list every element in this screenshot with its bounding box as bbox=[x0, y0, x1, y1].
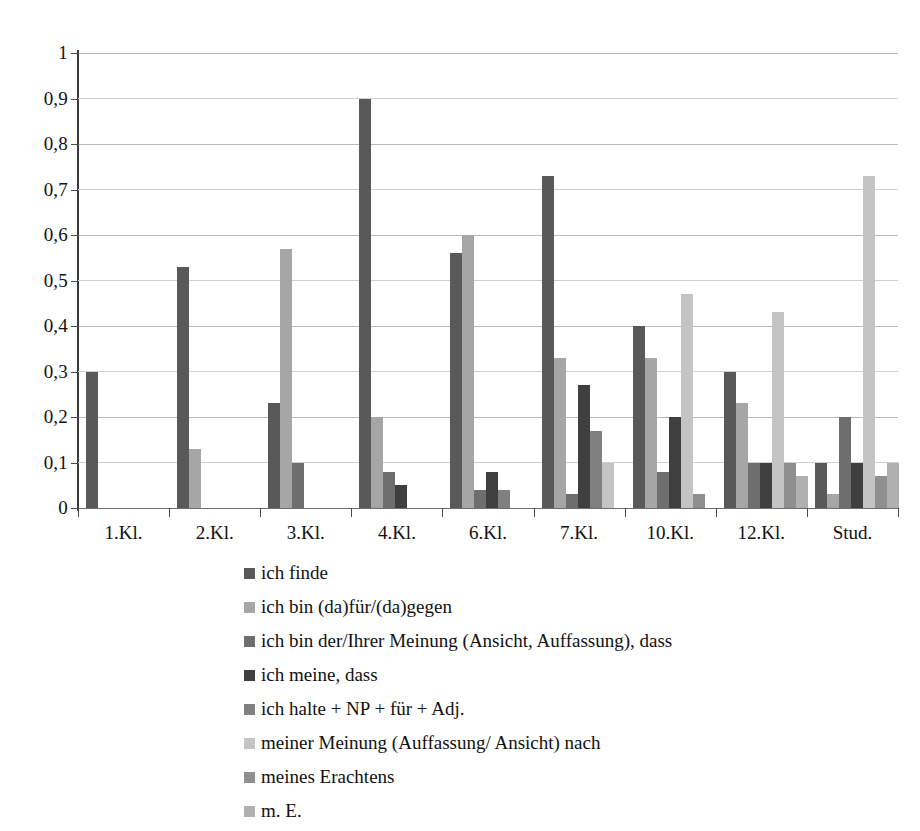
x-axis-tick-mark bbox=[716, 508, 717, 517]
x-axis-tick-mark bbox=[898, 508, 899, 517]
bar bbox=[760, 463, 772, 509]
y-axis-tick-mark bbox=[71, 508, 79, 509]
legend-label: ich bin (da)für/(da)gegen bbox=[261, 596, 452, 618]
legend-swatch-icon bbox=[244, 738, 255, 749]
y-axis-tick-label: 0 bbox=[8, 498, 68, 517]
legend-swatch-icon bbox=[244, 568, 255, 579]
legend-label: ich bin der/Ihrer Meinung (Ansicht, Auff… bbox=[261, 630, 672, 652]
bar-group-6kl bbox=[442, 53, 533, 508]
bar bbox=[566, 494, 578, 508]
legend-swatch-icon bbox=[244, 670, 255, 681]
bar bbox=[784, 463, 796, 509]
bar bbox=[887, 463, 899, 509]
x-axis-tick-mark bbox=[78, 508, 79, 517]
bar bbox=[602, 463, 614, 509]
bar bbox=[371, 417, 383, 508]
bar-group-stud bbox=[807, 53, 898, 508]
x-axis-tick-label: 2.Kl. bbox=[169, 522, 260, 544]
bar bbox=[693, 494, 705, 508]
bar bbox=[724, 372, 736, 509]
y-axis-tick-label: 0,6 bbox=[8, 225, 68, 244]
y-axis-tick-label: 0,4 bbox=[8, 316, 68, 335]
x-axis-tick-mark bbox=[351, 508, 352, 517]
bar bbox=[268, 403, 280, 508]
y-axis-tick-mark bbox=[71, 144, 79, 145]
legend-label: meines Erachtens bbox=[261, 766, 394, 788]
bar bbox=[498, 490, 510, 508]
bar bbox=[839, 417, 851, 508]
bar-group-3kl bbox=[260, 53, 351, 508]
bar bbox=[462, 235, 474, 508]
x-axis-tick-label: 4.Kl. bbox=[351, 522, 442, 544]
x-axis-tick-label: 3.Kl. bbox=[260, 522, 351, 544]
x-axis-tick-label: 12.Kl. bbox=[716, 522, 807, 544]
y-axis-tick-label: 0,5 bbox=[8, 271, 68, 290]
bar-group-10kl bbox=[625, 53, 716, 508]
bar-chart-figure: 00,10,20,30,40,50,60,70,80,91 1.Kl.2.Kl.… bbox=[0, 0, 920, 831]
bar bbox=[86, 372, 98, 509]
x-axis-tick-mark bbox=[442, 508, 443, 517]
legend-item[interactable]: ich bin der/Ihrer Meinung (Ansicht, Auff… bbox=[244, 624, 844, 658]
legend-item[interactable]: ich bin (da)für/(da)gegen bbox=[244, 590, 844, 624]
x-axis-tick-mark bbox=[534, 508, 535, 517]
bar bbox=[736, 403, 748, 508]
y-axis-tick-labels: 00,10,20,30,40,50,60,70,80,91 bbox=[0, 0, 68, 540]
bar bbox=[633, 326, 645, 508]
legend-label: ich finde bbox=[261, 562, 328, 584]
legend-item[interactable]: meines Erachtens bbox=[244, 760, 844, 794]
y-axis-tick-label: 0,1 bbox=[8, 453, 68, 472]
x-axis-tick-label: 7.Kl. bbox=[534, 522, 625, 544]
bar bbox=[875, 476, 887, 508]
legend-label: m. E. bbox=[261, 800, 302, 822]
y-axis-tick-label: 0,3 bbox=[8, 362, 68, 381]
x-axis-tick-mark bbox=[625, 508, 626, 517]
bar bbox=[590, 431, 602, 508]
x-axis-tick-mark bbox=[807, 508, 808, 517]
plot-wrapper: 00,10,20,30,40,50,60,70,80,91 1.Kl.2.Kl.… bbox=[0, 0, 920, 540]
bar-group-1kl bbox=[78, 53, 169, 508]
bar bbox=[863, 176, 875, 508]
bar-group-2kl bbox=[169, 53, 260, 508]
bar bbox=[177, 267, 189, 508]
bar bbox=[827, 494, 839, 508]
bar bbox=[669, 417, 681, 508]
bar bbox=[383, 472, 395, 508]
legend-item[interactable]: m. E. bbox=[244, 794, 844, 828]
bar bbox=[395, 485, 407, 508]
x-axis-line bbox=[78, 508, 898, 509]
x-axis-tick-label: 1.Kl. bbox=[78, 522, 169, 544]
x-axis-tick-label: 10.Kl. bbox=[625, 522, 716, 544]
bar bbox=[554, 358, 566, 508]
legend-label: ich halte + NP + für + Adj. bbox=[261, 698, 464, 720]
bar-group-4kl bbox=[351, 53, 442, 508]
bar bbox=[772, 312, 784, 508]
bar bbox=[280, 249, 292, 508]
bar bbox=[851, 463, 863, 509]
y-axis-tick-mark bbox=[71, 190, 79, 191]
bar bbox=[815, 463, 827, 509]
y-axis-tick-mark bbox=[71, 417, 79, 418]
legend-item[interactable]: ich halte + NP + für + Adj. bbox=[244, 692, 844, 726]
y-axis-tick-mark bbox=[71, 326, 79, 327]
y-axis-tick-mark bbox=[71, 281, 79, 282]
legend-item[interactable]: ich meine, dass bbox=[244, 658, 844, 692]
y-axis-tick-mark bbox=[71, 372, 79, 373]
y-axis-tick-mark bbox=[71, 235, 79, 236]
x-axis-tick-mark bbox=[169, 508, 170, 517]
bar bbox=[359, 99, 371, 509]
bar bbox=[542, 176, 554, 508]
y-axis-tick-label: 1 bbox=[8, 43, 68, 62]
bar-group-7kl bbox=[534, 53, 625, 508]
y-axis-tick-label: 0,2 bbox=[8, 407, 68, 426]
legend-swatch-icon bbox=[244, 636, 255, 647]
legend-item[interactable]: meiner Meinung (Auffassung/ Ansicht) nac… bbox=[244, 726, 844, 760]
bar bbox=[292, 463, 304, 509]
bar bbox=[748, 463, 760, 509]
legend-item[interactable]: ich finde bbox=[244, 556, 844, 590]
y-axis-tick-mark bbox=[71, 463, 79, 464]
plot-area bbox=[78, 53, 898, 508]
x-axis-tick-mark bbox=[260, 508, 261, 517]
bar bbox=[486, 472, 498, 508]
bar bbox=[578, 385, 590, 508]
bar bbox=[645, 358, 657, 508]
